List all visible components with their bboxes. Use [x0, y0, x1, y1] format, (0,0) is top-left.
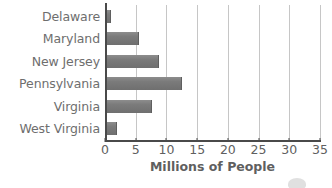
category-label: New Jersey — [0, 50, 103, 73]
bar-series — [105, 5, 320, 140]
category-axis-labels: DelawareMarylandNew JerseyPennsylvaniaVi… — [0, 5, 103, 140]
bar — [105, 55, 159, 68]
category-label: Maryland — [0, 28, 103, 51]
bar — [105, 122, 117, 135]
bar-row — [105, 28, 320, 51]
category-label: Virginia — [0, 95, 103, 118]
x-tick-label: 15 — [189, 142, 205, 157]
x-tick-label: 10 — [158, 142, 174, 157]
x-tick-label: 25 — [251, 142, 267, 157]
gridline — [320, 5, 321, 140]
x-tick-label: 20 — [220, 142, 236, 157]
category-label: Pennsylvania — [0, 73, 103, 96]
bar-row — [105, 5, 320, 28]
x-tick-label: 30 — [281, 142, 297, 157]
bar-row — [105, 95, 320, 118]
bar-row — [105, 50, 320, 73]
bar — [105, 77, 182, 90]
x-tick-label: 5 — [132, 142, 140, 157]
x-axis-title: Millions of People — [105, 159, 320, 174]
partial-logo-icon — [288, 178, 308, 188]
x-tick-label: 35 — [312, 142, 328, 157]
x-tick-label: 0 — [101, 142, 109, 157]
category-label: Delaware — [0, 5, 103, 28]
category-label: West Virginia — [0, 118, 103, 141]
bar-row — [105, 73, 320, 96]
bar-chart: DelawareMarylandNew JerseyPennsylvaniaVi… — [0, 0, 332, 188]
bar — [105, 100, 152, 113]
x-axis-tick-labels: 05101520253035 — [105, 142, 320, 158]
y-axis-line — [105, 3, 107, 142]
plot-area — [105, 5, 320, 140]
bar-row — [105, 118, 320, 141]
bar — [105, 32, 139, 45]
